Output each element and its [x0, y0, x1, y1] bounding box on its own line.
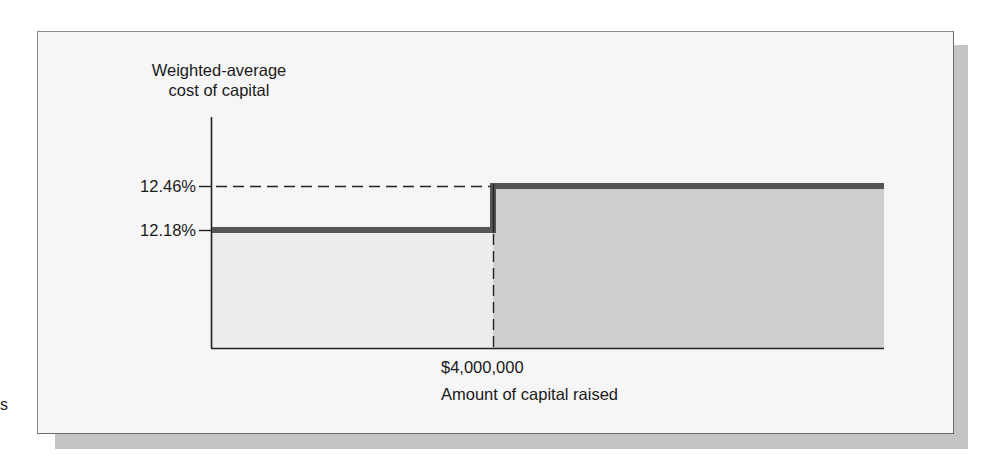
x-axis-title: Amount of capital raised — [441, 385, 618, 404]
fill-left-region — [212, 230, 493, 348]
x-tick-label-breakpoint: $4,000,000 — [441, 358, 524, 377]
y-tick-label-high: 12.46% — [101, 177, 196, 196]
y-tick-label-low: 12.18% — [101, 221, 196, 240]
fill-right-region — [493, 186, 884, 348]
